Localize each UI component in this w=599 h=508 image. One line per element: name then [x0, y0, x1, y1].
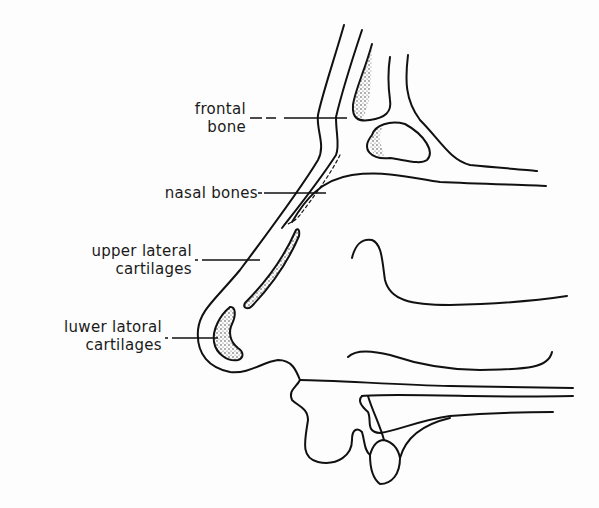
alveolar-ridge [368, 396, 384, 440]
label-upper-lateral-line2: cartilages [40, 260, 192, 278]
label-frontal-bone-line2: bone [150, 118, 246, 136]
alveolar-back [400, 418, 450, 458]
upper-lateral-cartilage-shape [244, 229, 299, 308]
label-lower-lateral-line2: cartilages [20, 336, 162, 354]
lower-lateral-cartilage-shape [214, 307, 243, 360]
soft-palate [360, 396, 553, 433]
frontal-bone-stipple [353, 44, 372, 118]
hard-palate-upper [300, 380, 573, 388]
nasal-cavity-roof [292, 174, 546, 222]
frontal-posterior [406, 55, 537, 171]
label-lower-lateral-line1: luwer latoral [20, 318, 162, 336]
label-frontal-bone-line1: frontal [150, 100, 246, 118]
label-upper-lateral-line1: upper lateral [40, 242, 192, 260]
upper-lip [291, 380, 370, 463]
upper-turbinate [352, 240, 567, 305]
hard-palate-lower [362, 395, 573, 397]
nose-anatomy-diagram: frontal bone nasal bones upper lateral c… [0, 0, 599, 508]
label-frontal-bone: frontal bone [150, 100, 246, 136]
label-lower-lateral-cartilages: luwer latoral cartilages [20, 318, 162, 354]
middle-turbinate [348, 351, 552, 370]
label-upper-lateral-cartilages: upper lateral cartilages [40, 242, 192, 278]
nose-profile-inner [282, 30, 362, 228]
incisor [370, 440, 400, 484]
label-nasal-bones: nasal bones [120, 184, 258, 202]
label-nasal-bones-line1: nasal bones [120, 184, 258, 202]
